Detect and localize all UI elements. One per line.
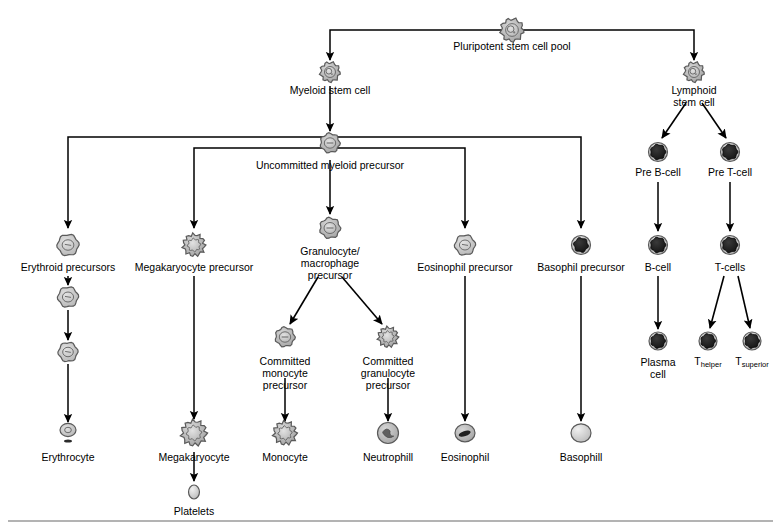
dark-lymphocyte-icon <box>649 332 667 350</box>
lobed-cell-icon <box>377 326 399 347</box>
node-label-myeloid-stem: Myeloid stem cell <box>290 84 371 96</box>
hematopoiesis-diagram-page: Pluripotent stem cell poolMyeloid stem c… <box>0 0 781 532</box>
node-committed-gran: Committedgranulocyteprecursor <box>361 326 415 391</box>
node-platelets: Platelets <box>174 485 214 517</box>
dark-lymphocyte-icon <box>699 332 717 350</box>
ringed-cell-icon <box>320 133 340 153</box>
node-committed-mono: Committedmonocyteprecursor <box>260 327 311 391</box>
edge-uncommitted-to-erythroid <box>68 137 330 228</box>
node-label-t-cells: T-cells <box>715 261 745 273</box>
node-label-committed-gran: Committedgranulocyteprecursor <box>361 355 415 391</box>
pale-cell-icon <box>58 342 78 361</box>
edge-lymphoid-to-pre-b <box>662 103 686 138</box>
node-erythroid-3 <box>58 342 78 361</box>
edge-granulo-to-committed-mono <box>290 277 318 324</box>
node-label-basophil-prec: Basophil precursor <box>537 261 625 273</box>
ringed-cell-icon <box>320 217 341 238</box>
node-t-superior: Tsuperior <box>735 332 769 369</box>
node-erythroid-2 <box>57 287 78 307</box>
node-label-megakaryocyte: Megakaryocyte <box>158 451 229 463</box>
edge-t-cells-to-helper <box>710 276 724 328</box>
dark-lymphocyte-icon <box>721 143 740 162</box>
node-label-megakaryocyte-prec: Megakaryocyte precursor <box>135 261 254 273</box>
pale-round-icon <box>571 424 591 442</box>
node-label-granulocyte-macro: Granulocyte/macrophageprecursor <box>300 245 360 281</box>
platelet-icon <box>189 485 200 499</box>
edge-granulo-to-committed-gran <box>342 277 382 324</box>
node-t-helper: Thelper <box>694 332 722 369</box>
node-label-basophill: Basophill <box>560 451 603 463</box>
dark-lymphocyte-icon <box>743 332 761 350</box>
node-label-monocyte: Monocyte <box>262 451 308 463</box>
node-layer: Pluripotent stem cell poolMyeloid stem c… <box>21 18 770 517</box>
stem-cell-icon <box>319 62 340 83</box>
edge-layer <box>68 30 750 481</box>
erythrocyte-icon <box>60 423 76 442</box>
node-basophill: Basophill <box>560 424 603 463</box>
node-label-erythroid-prec: Erythroid precursors <box>21 261 116 273</box>
node-granulocyte-macro: Granulocyte/macrophageprecursor <box>300 217 360 281</box>
node-plasma-cell: Plasmacell <box>640 332 675 380</box>
node-label-t-superior: Tsuperior <box>735 355 769 369</box>
node-label-t-helper: Thelper <box>694 355 722 369</box>
dark-lymphocyte-icon <box>649 143 668 162</box>
dark-lymphocyte-icon <box>721 236 740 255</box>
eosinophil-icon <box>455 424 475 442</box>
lobed-cell-icon <box>272 420 297 445</box>
node-label-committed-mono: Committedmonocyteprecursor <box>260 355 311 391</box>
stem-cell-icon <box>500 18 524 42</box>
node-label-eosinophil-prec: Eosinophil precursor <box>417 261 513 273</box>
lineage-diagram-canvas: Pluripotent stem cell poolMyeloid stem c… <box>0 0 781 532</box>
node-label-pre-b-cell: Pre B-cell <box>635 166 681 178</box>
node-eosinophil: Eosinophil <box>441 424 489 463</box>
node-lymphoid-stem: Lymphoidstem cell <box>671 62 716 108</box>
node-eosinophil-prec: Eosinophil precursor <box>417 235 513 273</box>
ringed-cell-icon <box>275 327 295 347</box>
node-monocyte: Monocyte <box>262 420 308 463</box>
pale-cell-icon <box>57 287 78 307</box>
node-neutrophill: Neutrophill <box>363 423 413 463</box>
node-myeloid-stem: Myeloid stem cell <box>290 62 371 96</box>
stem-cell-icon <box>683 62 704 83</box>
lobed-cell-icon <box>182 233 206 257</box>
node-erythrocyte: Erythrocyte <box>41 423 94 462</box>
node-label-lymphoid-stem: Lymphoidstem cell <box>671 84 716 108</box>
lobed-cell-icon <box>180 419 207 446</box>
pale-cell-icon <box>454 235 475 255</box>
edge-t-cells-to-superior <box>738 276 750 328</box>
node-pre-b-cell: Pre B-cell <box>635 143 681 178</box>
node-label-plasma-cell: Plasmacell <box>640 356 675 380</box>
node-t-cells: T-cells <box>715 236 745 273</box>
neutrophil-icon <box>378 423 399 444</box>
node-label-b-cell: B-cell <box>645 261 671 273</box>
node-label-pluripotent: Pluripotent stem cell pool <box>453 40 570 52</box>
node-megakaryocyte-prec: Megakaryocyte precursor <box>135 233 254 273</box>
dark-granular-icon <box>572 236 591 255</box>
edge-uncommitted-to-basophil <box>330 137 581 228</box>
pale-cell-icon <box>57 234 79 255</box>
node-erythroid-prec: Erythroid precursors <box>21 234 116 272</box>
dark-lymphocyte-icon <box>649 236 668 255</box>
node-basophil-prec: Basophil precursor <box>537 236 625 273</box>
node-label-uncommitted: Uncommitted myeloid precursor <box>256 159 405 171</box>
node-pluripotent: Pluripotent stem cell pool <box>453 18 570 52</box>
node-label-pre-t-cell: Pre T-cell <box>708 166 752 178</box>
node-label-neutrophill: Neutrophill <box>363 451 413 463</box>
node-label-eosinophil: Eosinophil <box>441 451 489 463</box>
node-b-cell: B-cell <box>645 236 671 273</box>
node-label-erythrocyte: Erythrocyte <box>41 451 94 463</box>
node-pre-t-cell: Pre T-cell <box>708 143 752 178</box>
node-label-platelets: Platelets <box>174 505 214 517</box>
node-megakaryocyte: Megakaryocyte <box>158 419 229 463</box>
node-uncommitted: Uncommitted myeloid precursor <box>256 133 405 171</box>
edge-lymphoid-to-pre-t <box>702 103 726 138</box>
